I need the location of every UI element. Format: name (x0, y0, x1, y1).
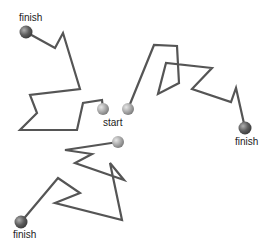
walk-right-path (128, 45, 245, 128)
random-walk-diagram (0, 0, 273, 247)
walk-endpoints (15, 26, 252, 229)
label-finish-right: finish (235, 137, 258, 147)
walk-bottom-left-start-ball-icon (112, 136, 124, 148)
walk-right-start-ball-icon (122, 103, 134, 115)
label-finish-bottom-left: finish (13, 230, 36, 240)
walk-bottom-left-finish-ball-icon (15, 216, 28, 229)
walk-paths (20, 32, 245, 222)
label-finish-top-left: finish (19, 13, 42, 23)
walk-top-left-path (20, 32, 103, 130)
walk-top-left-start-ball-icon (97, 103, 109, 115)
walk-right-finish-ball-icon (239, 122, 252, 135)
walk-bottom-left-path (21, 142, 124, 222)
walk-top-left-finish-ball-icon (20, 26, 33, 39)
label-start: start (103, 118, 122, 128)
